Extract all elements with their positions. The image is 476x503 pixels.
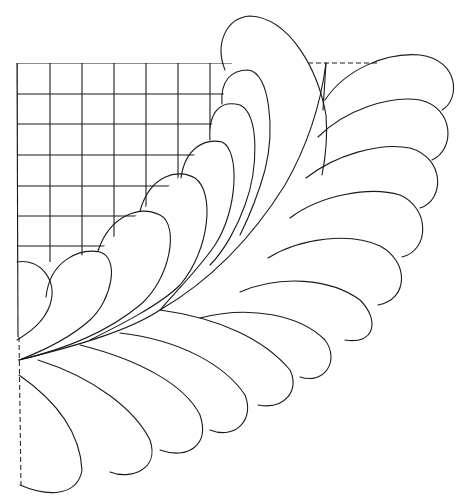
- quilting-pattern-canvas: [0, 0, 476, 503]
- outer-feather-plume: [120, 333, 248, 433]
- feather-spine: [19, 63, 326, 360]
- outer-feather-plume: [160, 310, 293, 406]
- outer-feather-plume: [240, 281, 372, 341]
- outer-feather-plume: [38, 360, 152, 475]
- outer-feather-plume: [80, 345, 202, 453]
- outer-feather-plume: [290, 192, 423, 257]
- grid-background: [17, 63, 260, 337]
- outer-feather-plume: [268, 238, 402, 305]
- inner-feather-plume: [19, 251, 111, 360]
- inner-feather-plume: [17, 262, 52, 340]
- inner-feather-plume: [222, 70, 270, 235]
- outer-feathers: [19, 55, 454, 493]
- outer-feather-plume: [19, 375, 82, 493]
- outer-feather-plume: [306, 147, 438, 208]
- outer-feather-plume: [318, 99, 448, 160]
- inner-feathers: [17, 16, 327, 360]
- inner-feather-plume: [210, 104, 255, 265]
- inner-feather-plume: [221, 16, 326, 175]
- grid-left-border: [17, 63, 18, 337]
